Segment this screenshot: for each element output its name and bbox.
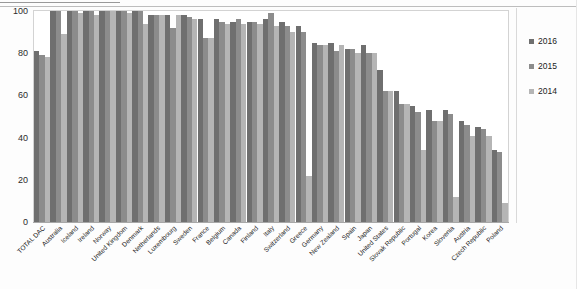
legend-swatch-icon	[529, 64, 534, 69]
bar-group	[443, 11, 459, 222]
bar-group	[67, 11, 83, 222]
y-axis-tick: 40	[18, 133, 28, 142]
bar-group	[492, 11, 508, 222]
bar-group	[263, 11, 279, 222]
legend-item-2016[interactable]: 2016	[529, 36, 557, 46]
bar-group	[83, 11, 99, 222]
y-axis-tick: 20	[18, 175, 28, 184]
bar-group	[116, 11, 132, 222]
bar-group	[328, 11, 344, 222]
bar-group	[197, 11, 213, 222]
legend-label: 2014	[538, 86, 557, 96]
bar-group	[279, 11, 295, 222]
bar-group	[246, 11, 262, 222]
legend-label: 2016	[538, 36, 557, 46]
bar-group	[377, 11, 393, 222]
bar-group	[410, 11, 426, 222]
bar-group	[34, 11, 50, 222]
x-axis-label-slot: Finland	[246, 224, 262, 289]
bar-group	[50, 11, 66, 222]
bar-group	[296, 11, 312, 222]
bar-group	[132, 11, 148, 222]
bar-group	[165, 11, 181, 222]
bar-2014	[502, 203, 507, 222]
y-axis-tick: 100	[13, 7, 28, 16]
page-divider	[0, 6, 577, 7]
y-axis: 020406080100	[0, 10, 33, 223]
x-axis-spine	[33, 222, 509, 223]
legend-swatch-icon	[529, 39, 534, 44]
bar-group	[230, 11, 246, 222]
y-axis-tick: 80	[18, 49, 28, 58]
legend-item-2015[interactable]: 2015	[529, 61, 557, 71]
y-axis-tick: 60	[18, 91, 28, 100]
bar-group	[214, 11, 230, 222]
plot-area	[34, 11, 508, 222]
legend-label: 2015	[538, 61, 557, 71]
page-divider-secondary	[0, 2, 120, 3]
x-axis-labels: TOTAL DACAustraliaIcelandIrelandNorwayUn…	[34, 224, 508, 289]
legend: 201620152014	[516, 8, 577, 223]
y-axis-tick: 0	[23, 218, 28, 227]
bar-group	[312, 11, 328, 222]
bar-chart: 020406080100 TOTAL DACAustraliaIcelandIr…	[0, 0, 577, 289]
bar-group	[345, 11, 361, 222]
legend-item-2014[interactable]: 2014	[529, 86, 557, 96]
bar-group	[426, 11, 442, 222]
bar-groups	[34, 11, 508, 222]
bar-group	[361, 11, 377, 222]
bar-group	[394, 11, 410, 222]
bar-group	[181, 11, 197, 222]
bar-group	[459, 11, 475, 222]
bar-group	[148, 11, 164, 222]
bar-group	[99, 11, 115, 222]
bar-group	[475, 11, 491, 222]
legend-swatch-icon	[529, 89, 534, 94]
x-axis-label-slot: Poland	[492, 224, 508, 289]
